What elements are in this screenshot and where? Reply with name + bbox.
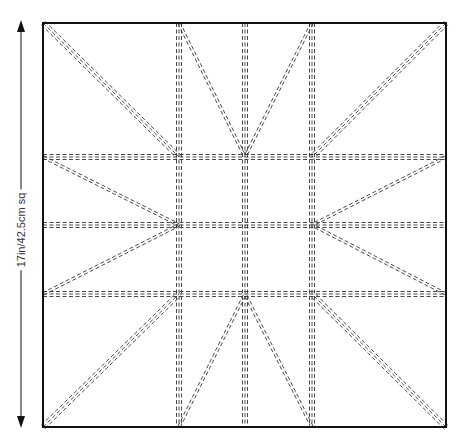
folding-pattern-diagram xyxy=(0,0,464,447)
dashed-fold-lines xyxy=(41,21,448,429)
dimension-label: 17in/42.5cm sq xyxy=(15,190,27,271)
